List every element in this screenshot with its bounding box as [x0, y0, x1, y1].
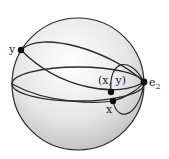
label-xy: (x, y)	[98, 74, 126, 87]
label-e2: e2	[149, 76, 161, 91]
point-e2	[141, 79, 148, 86]
point-y	[18, 47, 24, 53]
sphere-diagram: y (x, y) x e2	[0, 0, 169, 159]
label-x: x	[106, 103, 113, 116]
point-xy	[108, 89, 114, 95]
sphere-svg: y (x, y) x e2	[0, 0, 169, 159]
label-e2-subscript: 2	[156, 82, 161, 91]
label-y: y	[8, 43, 16, 56]
